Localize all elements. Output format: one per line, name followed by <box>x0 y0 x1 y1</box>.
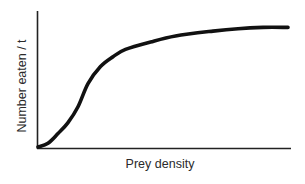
y-axis-label: Number eaten / t <box>15 39 29 133</box>
x-axis-label: Prey density <box>126 157 196 171</box>
functional-response-chart: Prey density Number eaten / t <box>0 0 305 184</box>
response-curve <box>38 27 288 147</box>
